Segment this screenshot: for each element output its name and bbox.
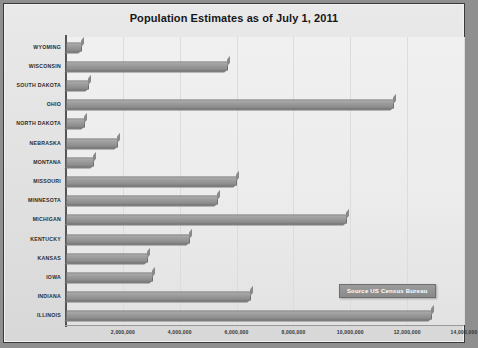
chart-row: WISCONSIN [66, 56, 464, 75]
chart-row: KANSAS [66, 248, 464, 267]
x-tick-label: 4,000,000 [168, 329, 192, 335]
chart-row: NEBRASKA [66, 133, 464, 152]
x-axis-line [65, 325, 464, 326]
y-axis-label: WYOMING [33, 44, 61, 50]
bar-ohio [66, 100, 394, 109]
y-axis-label: NORTH DAKOTA [16, 120, 61, 126]
y-axis-label: MISSOURI [33, 178, 61, 184]
bar-michigan [66, 215, 347, 224]
source-annotation: Source US Census Bureau [339, 284, 436, 298]
chart-row: KENTUCKY [66, 229, 464, 248]
bar-wisconsin [66, 61, 228, 70]
y-axis-label: OHIO [47, 101, 61, 107]
bar-iowa [66, 272, 153, 281]
chart-row: MINNESOTA [66, 191, 464, 210]
y-axis-label: KANSAS [38, 255, 61, 261]
chart-row: MICHIGAN [66, 210, 464, 229]
y-axis-label: ILLINOIS [37, 312, 61, 318]
y-axis-label: SOUTH DAKOTA [17, 82, 61, 88]
bar-north-dakota [66, 119, 85, 128]
chart-row: MONTANA [66, 152, 464, 171]
y-axis-label: WISCONSIN [29, 63, 61, 69]
bar-illinois [66, 311, 432, 320]
y-axis-label: MINNESOTA [28, 197, 61, 203]
chart-row: OHIO [66, 95, 464, 114]
y-axis-label: IOWA [46, 274, 61, 280]
bar-minnesota [66, 196, 218, 205]
bar-south-dakota [66, 80, 89, 89]
bar-missouri [66, 176, 237, 185]
y-axis-label: NEBRASKA [30, 140, 61, 146]
plot-area: WYOMINGWISCONSINSOUTH DAKOTAOHIONORTH DA… [66, 37, 464, 325]
y-axis-label: MICHIGAN [33, 216, 61, 222]
x-tick-label: 12,000,000 [394, 329, 421, 335]
bar-nebraska [66, 138, 118, 147]
bar-kansas [66, 253, 148, 262]
bar-indiana [66, 292, 251, 301]
y-axis-label: KENTUCKY [30, 236, 61, 242]
chart-frame: Population Estimates as of July 1, 2011 … [3, 3, 465, 343]
chart-row: NORTH DAKOTA [66, 114, 464, 133]
x-tick-label: 2,000,000 [111, 329, 135, 335]
bar-wyoming [66, 42, 82, 51]
x-tick-label: 10,000,000 [337, 329, 364, 335]
x-tick-label: 6,000,000 [225, 329, 249, 335]
chart-row: WYOMING [66, 37, 464, 56]
x-tick-label: 8,000,000 [281, 329, 305, 335]
y-axis-label: MONTANA [33, 159, 61, 165]
bar-montana [66, 157, 94, 166]
chart-title: Population Estimates as of July 1, 2011 [4, 12, 464, 24]
chart-row: SOUTH DAKOTA [66, 75, 464, 94]
y-axis-label: INDIANA [38, 293, 61, 299]
gridline-6 [464, 37, 465, 325]
chart-row: ILLINOIS [66, 306, 464, 325]
chart-row: MISSOURI [66, 171, 464, 190]
x-tick-label: 14,000,000 [450, 329, 477, 335]
bar-kentucky [66, 234, 190, 243]
